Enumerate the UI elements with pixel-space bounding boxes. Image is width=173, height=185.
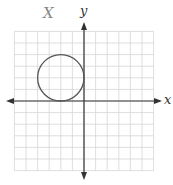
- coordinate-plane: [0, 0, 173, 185]
- y-axis-up-arrow-icon: [81, 22, 87, 30]
- y-axis-down-arrow-icon: [81, 172, 87, 180]
- x-axis-left-arrow-icon: [6, 98, 14, 104]
- x-axis-right-arrow-icon: [154, 98, 162, 104]
